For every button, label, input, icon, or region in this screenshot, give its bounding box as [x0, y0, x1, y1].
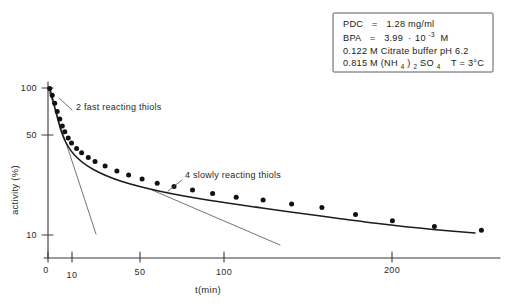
- data-point: [66, 136, 71, 141]
- info-pdc-value: 1.28 mg/ml: [386, 19, 434, 29]
- fast-thiols-annotation-label: 2 fast reacting thiols: [76, 102, 162, 112]
- data-point: [155, 181, 160, 186]
- slow-phase-tangent-line: [152, 190, 280, 245]
- data-point: [55, 109, 60, 114]
- info-line-buffer: 0.122 M Citrate buffer pH 6.2: [343, 46, 469, 56]
- x-ticks-group: [48, 252, 392, 262]
- data-point: [74, 146, 79, 151]
- data-point: [432, 224, 437, 229]
- fast-thiols-leader-line: [59, 98, 72, 110]
- slow-thiols-annotation-label: 4 slowly reacting thiols: [185, 170, 281, 180]
- info-bpa-base: 10: [415, 33, 426, 43]
- data-point: [190, 188, 195, 193]
- info-pdc-equals: =: [372, 19, 378, 29]
- x-tick-label-200: 200: [384, 265, 400, 275]
- info-salt-part1: 0.815 M (NH: [343, 58, 398, 68]
- experimental-conditions-box: PDC = 1.28 mg/ml BPA = 3.99 · 10 -3 M 0.…: [333, 13, 493, 72]
- x-tick-label-50: 50: [135, 267, 146, 277]
- y-tick-label-100: 100: [21, 83, 37, 93]
- data-point: [62, 129, 67, 134]
- info-line-pdc: PDC = 1.28 mg/ml: [343, 19, 434, 29]
- data-point: [50, 93, 55, 98]
- data-point: [261, 198, 266, 203]
- data-point: [86, 155, 91, 160]
- y-tick-label-10: 10: [26, 230, 37, 240]
- data-point: [234, 195, 239, 200]
- tangent-lines-group: [49, 91, 280, 245]
- data-point: [69, 141, 74, 146]
- y-tick-labels-group: 100 50 10: [21, 83, 37, 240]
- x-tick-labels-group: 0 10 50 100 200: [43, 265, 400, 280]
- activity-decay-chart: 100 50 10 0 10 50 100 200 t(min) activit…: [0, 0, 516, 306]
- info-salt-sub2: 2: [413, 63, 417, 70]
- y-axis-title: activity (%): [9, 165, 20, 215]
- data-point: [47, 86, 52, 91]
- info-bpa-equals: =: [370, 33, 376, 43]
- x-tick-label-100: 100: [216, 267, 232, 277]
- info-bpa-dot: ·: [408, 33, 411, 43]
- data-point: [210, 191, 215, 196]
- figure-root: 100 50 10 0 10 50 100 200 t(min) activit…: [0, 0, 516, 306]
- data-point: [126, 173, 131, 178]
- data-point: [140, 177, 145, 182]
- data-point: [60, 124, 65, 129]
- info-bpa-exponent: -3: [429, 31, 435, 38]
- x-tick-label-10: 10: [67, 270, 78, 280]
- info-salt-sub3: 4: [437, 63, 441, 70]
- info-pdc-label: PDC: [343, 19, 363, 29]
- info-bpa-mantissa: 3.99: [384, 33, 403, 43]
- info-bpa-unit: M: [441, 33, 449, 43]
- data-point: [114, 169, 119, 174]
- data-point: [479, 228, 484, 233]
- y-tick-label-50: 50: [26, 130, 37, 140]
- data-point: [52, 101, 57, 106]
- data-point: [353, 212, 358, 217]
- data-point: [319, 205, 324, 210]
- data-point: [79, 150, 84, 155]
- data-point: [289, 202, 294, 207]
- data-point: [103, 164, 108, 169]
- info-bpa-label: BPA: [343, 33, 362, 43]
- info-salt-temperature: T = 3°C: [451, 58, 484, 68]
- info-salt-part2: ): [407, 58, 410, 68]
- slow-thiols-leader-line: [168, 180, 182, 191]
- data-point: [390, 218, 395, 223]
- info-salt-sub1: 4: [401, 63, 405, 70]
- x-tick-label-0: 0: [43, 265, 48, 275]
- x-axis-title: t(min): [195, 284, 221, 295]
- info-salt-part3: SO: [420, 58, 434, 68]
- data-point: [57, 117, 62, 122]
- data-point: [93, 159, 98, 164]
